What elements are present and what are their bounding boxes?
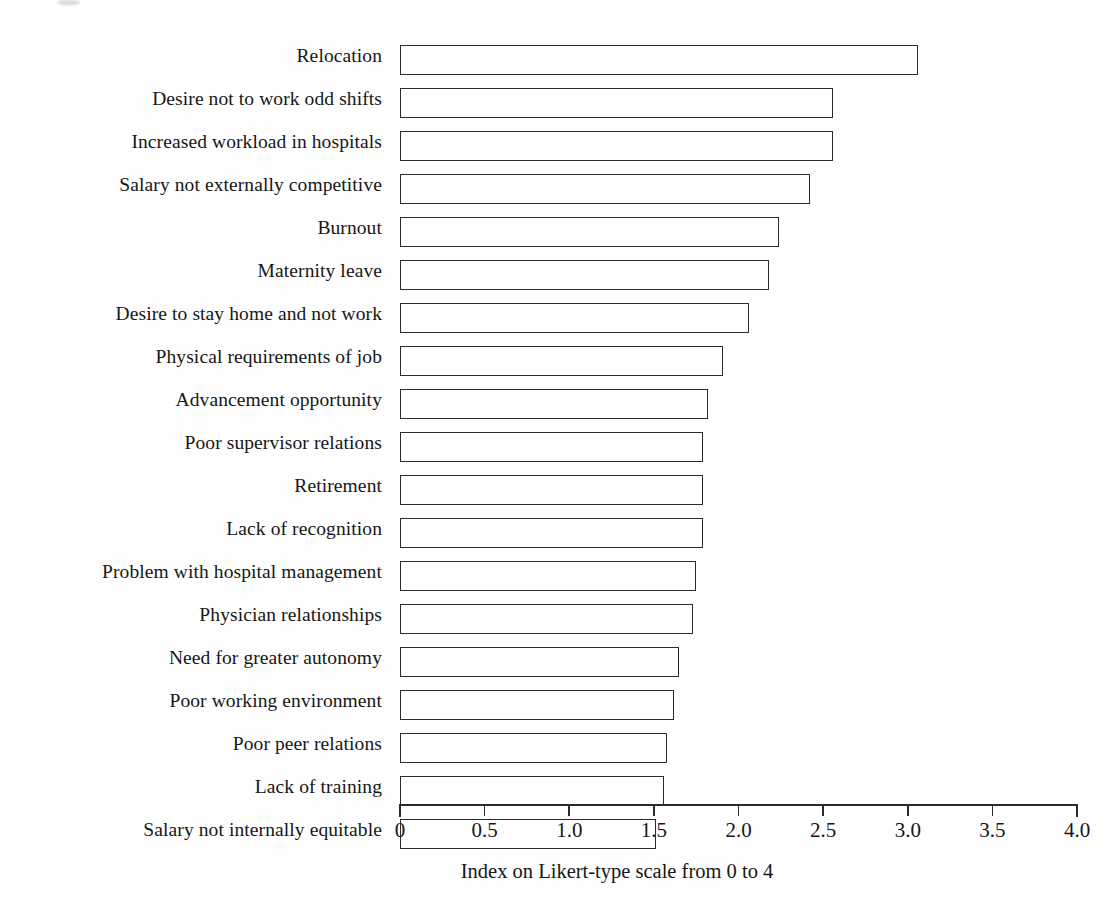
bar-row: Desire to stay home and not work: [0, 299, 1116, 342]
category-label: Relocation: [0, 41, 382, 84]
bar-track: [400, 346, 1077, 376]
bar-row: Retirement: [0, 471, 1116, 514]
bar: [400, 518, 703, 548]
bar: [400, 131, 833, 161]
x-axis-tick-label: 1.0: [534, 818, 604, 843]
bar-track: [400, 45, 1077, 75]
bar-track: [400, 260, 1077, 290]
bar-row: Desire not to work odd shifts: [0, 84, 1116, 127]
bar-row: Increased workload in hospitals: [0, 127, 1116, 170]
x-axis-tick-label: 1.5: [619, 818, 689, 843]
x-axis-tick-label: 2.0: [704, 818, 774, 843]
category-label: Desire not to work odd shifts: [0, 84, 382, 127]
bar-row: Maternity leave: [0, 256, 1116, 299]
bar-row: Poor supervisor relations: [0, 428, 1116, 471]
x-axis-tick: [992, 804, 994, 816]
bar: [400, 776, 664, 806]
bar-track: [400, 131, 1077, 161]
x-axis-title-text: Index on Likert-type scale from 0 to 4: [461, 860, 774, 883]
bar-track: [400, 389, 1077, 419]
bar: [400, 432, 703, 462]
bar-track: [400, 217, 1077, 247]
category-label: Salary not externally competitive: [0, 170, 382, 213]
x-axis-tick-label: 0.5: [450, 818, 520, 843]
bar: [400, 45, 918, 75]
bar: [400, 346, 723, 376]
bar: [400, 647, 679, 677]
x-axis-tick: [568, 804, 570, 816]
bar: [400, 819, 656, 849]
category-label: Increased workload in hospitals: [0, 127, 382, 170]
bar-row: Need for greater autonomy: [0, 643, 1116, 686]
category-label: Lack of training: [0, 772, 382, 815]
bar: [400, 690, 674, 720]
bar-track: [400, 303, 1077, 333]
bar: [400, 604, 693, 634]
bar-track: [400, 88, 1077, 118]
figure-bar-chart: RelocationDesire not to work odd shiftsI…: [0, 0, 1116, 918]
bar-track: [400, 604, 1077, 634]
category-label: Desire to stay home and not work: [0, 299, 382, 342]
x-axis-tick-label: 3.5: [957, 818, 1027, 843]
category-label: Poor working environment: [0, 686, 382, 729]
bar-row: Physical requirements of job: [0, 342, 1116, 385]
category-label: Burnout: [0, 213, 382, 256]
bar: [400, 260, 769, 290]
bar-track: [400, 561, 1077, 591]
x-axis-tick-label: 4.0: [1042, 818, 1112, 843]
category-label: Problem with hospital management: [0, 557, 382, 600]
x-axis-tick: [907, 804, 909, 816]
bar: [400, 561, 696, 591]
bar-row: Poor working environment: [0, 686, 1116, 729]
bar: [400, 303, 749, 333]
bar: [400, 174, 810, 204]
x-axis-tick: [399, 804, 401, 817]
category-label: Need for greater autonomy: [0, 643, 382, 686]
category-label: Physical requirements of job: [0, 342, 382, 385]
x-axis-tick-label: 2.5: [788, 818, 858, 843]
bar-track: [400, 647, 1077, 677]
bar-track: [400, 776, 1077, 806]
bar-row: Relocation: [0, 41, 1116, 84]
category-label: Advancement opportunity: [0, 385, 382, 428]
x-axis-tick-label: 3.0: [873, 818, 943, 843]
x-axis-title: Index on Likert-type scale from 0 to 4: [0, 860, 1116, 883]
bar-row: Salary not externally competitive: [0, 170, 1116, 213]
bar-row: Burnout: [0, 213, 1116, 256]
bar-row: Advancement opportunity: [0, 385, 1116, 428]
x-axis-tick: [738, 804, 740, 816]
bar: [400, 217, 779, 247]
category-label: Lack of recognition: [0, 514, 382, 557]
x-axis-tick: [822, 804, 824, 816]
bar-track: [400, 432, 1077, 462]
bar-row: Physician relationships: [0, 600, 1116, 643]
bar-track: [400, 518, 1077, 548]
bar-track: [400, 475, 1077, 505]
bar-track: [400, 733, 1077, 763]
bar-row: Lack of recognition: [0, 514, 1116, 557]
x-axis-tick: [484, 804, 486, 816]
category-label: Poor peer relations: [0, 729, 382, 772]
plot-area: RelocationDesire not to work odd shiftsI…: [0, 0, 1116, 918]
bar-row: Poor peer relations: [0, 729, 1116, 772]
bar-row: Problem with hospital management: [0, 557, 1116, 600]
bar: [400, 475, 703, 505]
category-label: Salary not internally equitable: [0, 815, 382, 858]
x-axis-tick: [653, 804, 655, 816]
x-axis-tick: [1076, 804, 1078, 817]
x-axis-tick-label: 0: [365, 818, 435, 843]
category-label: Maternity leave: [0, 256, 382, 299]
category-label: Retirement: [0, 471, 382, 514]
bar-track: [400, 690, 1077, 720]
bar: [400, 389, 708, 419]
bar: [400, 88, 833, 118]
bar-track: [400, 174, 1077, 204]
bar-row: Lack of training: [0, 772, 1116, 815]
category-label: Poor supervisor relations: [0, 428, 382, 471]
category-label: Physician relationships: [0, 600, 382, 643]
bar: [400, 733, 667, 763]
